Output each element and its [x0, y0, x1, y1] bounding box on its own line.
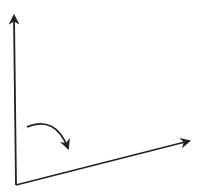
vector-rotation-diagram [0, 0, 203, 196]
vertical-vector-arrow [14, 16, 16, 185]
rotation-arrow-icon [27, 124, 68, 148]
slanted-vector-arrow [16, 141, 189, 185]
